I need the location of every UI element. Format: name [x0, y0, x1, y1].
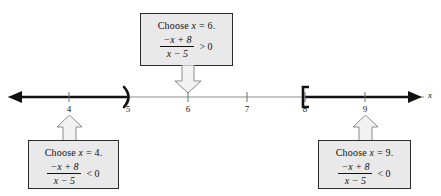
callout-bottom-right-headline: Choose x = 9. [319, 146, 410, 159]
fraction-bottom-left: −x + 8 x − 5 [47, 161, 81, 186]
fraction-top-bar [160, 46, 194, 47]
callout-bottom-left-relation: < 0 [86, 168, 99, 179]
callout-top-relation: > 0 [199, 41, 212, 52]
fraction-top: −x + 8 x − 5 [160, 34, 194, 59]
tick-label-9: 9 [358, 104, 372, 114]
fraction-bottom-right-numerator: −x + 8 [338, 161, 372, 172]
fraction-top-numerator: −x + 8 [160, 34, 194, 45]
callout-top-headline: Choose x = 6. [141, 19, 232, 32]
fraction-top-denominator: x − 5 [164, 48, 191, 59]
fraction-bottom-right-bar [338, 173, 372, 174]
callout-bottom-left-headline: Choose x = 4. [29, 146, 118, 159]
callout-box-top: Choose x = 6. −x + 8 x − 5 > 0 [140, 13, 233, 66]
tick-label-5: 5 [121, 104, 135, 114]
number-line-figure: Choose x = 6. −x + 8 x − 5 > 0 [0, 0, 441, 196]
callout-box-bottom-right: Choose x = 9. −x + 8 x − 5 < 0 [318, 140, 411, 189]
callout-bottom-left-expression: −x + 8 x − 5 < 0 [29, 161, 118, 186]
fraction-bottom-left-numerator: −x + 8 [47, 161, 81, 172]
tick-label-4: 4 [62, 104, 76, 114]
callout-box-bottom-left: Choose x = 4. −x + 8 x − 5 < 0 [28, 140, 119, 189]
callout-bottom-left-arrow-up [56, 115, 83, 142]
callout-top-expression: −x + 8 x − 5 > 0 [141, 34, 232, 59]
callout-bottom-right-relation: < 0 [377, 168, 390, 179]
tick-label-6: 6 [181, 104, 195, 114]
tick-label-8: 8 [298, 104, 312, 114]
fraction-bottom-right: −x + 8 x − 5 [338, 161, 372, 186]
axis-label-x: x [428, 90, 432, 100]
fraction-bottom-right-denominator: x − 5 [342, 175, 369, 186]
tick-label-7: 7 [240, 104, 254, 114]
callout-bottom-right-expression: −x + 8 x − 5 < 0 [319, 161, 410, 186]
fraction-bottom-left-bar [47, 173, 81, 174]
callout-bottom-right-arrow-up [352, 115, 379, 142]
fraction-bottom-left-denominator: x − 5 [51, 175, 78, 186]
